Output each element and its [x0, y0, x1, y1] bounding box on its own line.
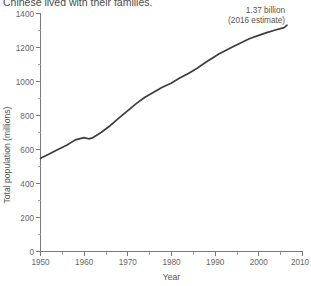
y-tick-labels: 1400 1200 1000 800 600 400 200 0 [16, 10, 35, 257]
x-tick-label: 1990 [206, 258, 225, 267]
x-tick-label: 1950 [31, 258, 50, 267]
y-axis-title: Total population (millions) [2, 106, 12, 203]
y-tick-label: 1400 [16, 10, 35, 19]
endpoint-annotation: 1.37 billion (2016 estimate) [228, 6, 285, 25]
y-tick-label: 1000 [16, 78, 35, 87]
x-tick-label: 1960 [75, 258, 94, 267]
y-tick-label: 800 [20, 112, 34, 121]
x-tick-label: 1970 [119, 258, 138, 267]
y-axis-ticks [36, 14, 41, 252]
y-tick-label: 600 [20, 146, 34, 155]
annotation-line-2: (2016 estimate) [228, 16, 285, 25]
x-tick-label: 2010 [291, 258, 310, 267]
x-axis-title: Year [163, 272, 181, 282]
y-tick-label: 1200 [16, 44, 35, 53]
x-tick-label: 2000 [250, 258, 269, 267]
annotation-line-1: 1.37 billion [246, 6, 286, 15]
population-line-chart: 1400 1200 1000 800 600 400 200 0 [0, 0, 311, 286]
chart-figure: Chinese lived with their families. 1400 [0, 0, 311, 286]
population-series-line [41, 25, 288, 158]
x-tick-labels: 1950 1960 1970 1980 1990 2000 2010 [31, 258, 309, 267]
y-tick-label: 400 [20, 180, 34, 189]
y-tick-label: 200 [20, 214, 34, 223]
x-axis-ticks [41, 252, 303, 257]
x-tick-label: 1980 [162, 258, 181, 267]
y-tick-label: 0 [29, 248, 34, 257]
